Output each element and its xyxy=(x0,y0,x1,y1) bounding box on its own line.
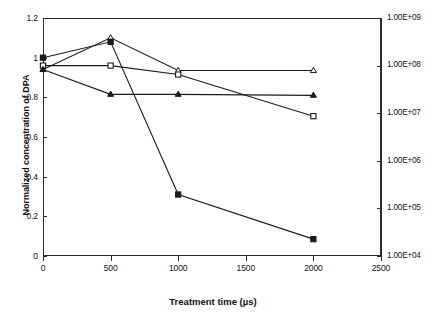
series-open-triangle-series xyxy=(40,35,316,73)
x-axis-title: Treatment time (µs) xyxy=(93,296,333,307)
marker-open-square xyxy=(176,72,181,77)
marker-filled-triangle xyxy=(310,92,316,97)
chart-figure: 1.2 1 0.8 0.6 0.4 0.2 0 1.00E+09 1.00E+0… xyxy=(0,0,439,321)
y-axis-title: Normalized concentration of DPA xyxy=(21,45,31,245)
marker-filled-square xyxy=(176,192,181,197)
marker-open-square xyxy=(311,114,316,119)
marker-open-square xyxy=(108,63,113,68)
marker-filled-square xyxy=(108,39,113,44)
marker-filled-square xyxy=(40,55,45,60)
data-series-layer xyxy=(0,0,439,321)
marker-open-triangle xyxy=(310,67,316,72)
y-axis-title-box: Normalized concentration of DPA xyxy=(0,0,14,321)
marker-filled-triangle xyxy=(175,91,181,96)
y2-axis-title-box: cfu/mL xyxy=(418,0,434,321)
marker-filled-square xyxy=(311,237,316,242)
